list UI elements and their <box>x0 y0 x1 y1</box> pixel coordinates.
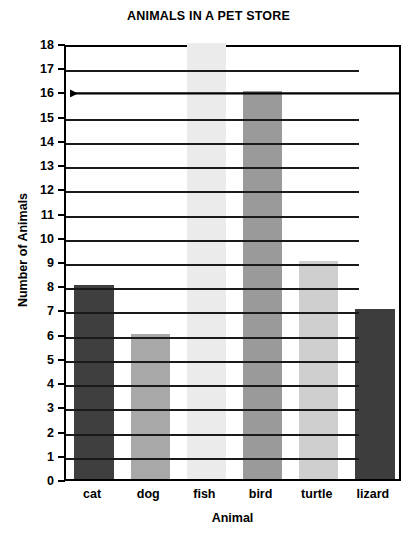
gridline <box>66 458 359 460</box>
gridline <box>66 70 359 72</box>
gridline <box>66 385 359 387</box>
x-axis-label-turtle: turtle <box>289 487 345 501</box>
gridline <box>66 337 359 339</box>
gridline <box>66 264 359 266</box>
y-axis-tick-label: 9 <box>24 257 54 270</box>
gridline <box>66 434 359 436</box>
y-axis-tick-label: 3 <box>24 402 54 415</box>
y-axis-tick-label: 15 <box>24 112 54 125</box>
y-axis-tick-label: 1 <box>24 451 54 464</box>
gridline <box>66 94 399 96</box>
gridline <box>66 312 359 314</box>
bar-bird <box>243 91 282 479</box>
gridline <box>66 409 359 411</box>
y-axis-tick-label: 2 <box>24 427 54 440</box>
y-axis-tick-label: 11 <box>24 209 54 222</box>
gridline <box>66 288 359 290</box>
x-axis-label-bird: bird <box>233 487 289 501</box>
y-axis-tick-label: 10 <box>24 233 54 246</box>
bar-fish <box>187 43 226 479</box>
gridline <box>66 240 359 242</box>
y-axis-tick-label: 0 <box>24 475 54 488</box>
y-axis-tick-label: 16 <box>24 87 54 100</box>
y-axis-tick-label: 14 <box>24 136 54 149</box>
gridline <box>66 191 359 193</box>
x-axis-label-cat: cat <box>64 487 120 501</box>
gridline <box>66 361 359 363</box>
gridline <box>66 167 359 169</box>
x-axis-label-fish: fish <box>176 487 232 501</box>
plot-area <box>64 45 401 481</box>
x-axis-label-dog: dog <box>120 487 176 501</box>
y-axis-tick-label: 4 <box>24 378 54 391</box>
x-axis-label-lizard: lizard <box>345 487 401 501</box>
y-axis-tick-label: 6 <box>24 330 54 343</box>
chart-title: ANIMALS IN A PET STORE <box>0 9 417 23</box>
bar-chart: ANIMALS IN A PET STORE Number of Animals… <box>0 0 417 538</box>
gridline <box>66 216 359 218</box>
gridline <box>66 119 359 121</box>
bar-turtle <box>299 261 338 479</box>
y-axis-tick-label: 5 <box>24 354 54 367</box>
y-axis-tick-label: 8 <box>24 281 54 294</box>
y-axis-tick-label: 18 <box>24 39 54 52</box>
bar-lizard <box>355 309 394 479</box>
y-axis-tick-label: 13 <box>24 160 54 173</box>
y-axis-tick-label: 7 <box>24 305 54 318</box>
gridline <box>66 143 359 145</box>
y-axis-tick-label: 12 <box>24 184 54 197</box>
y-axis-tick-label: 17 <box>24 63 54 76</box>
x-axis-title: Animal <box>64 511 401 525</box>
